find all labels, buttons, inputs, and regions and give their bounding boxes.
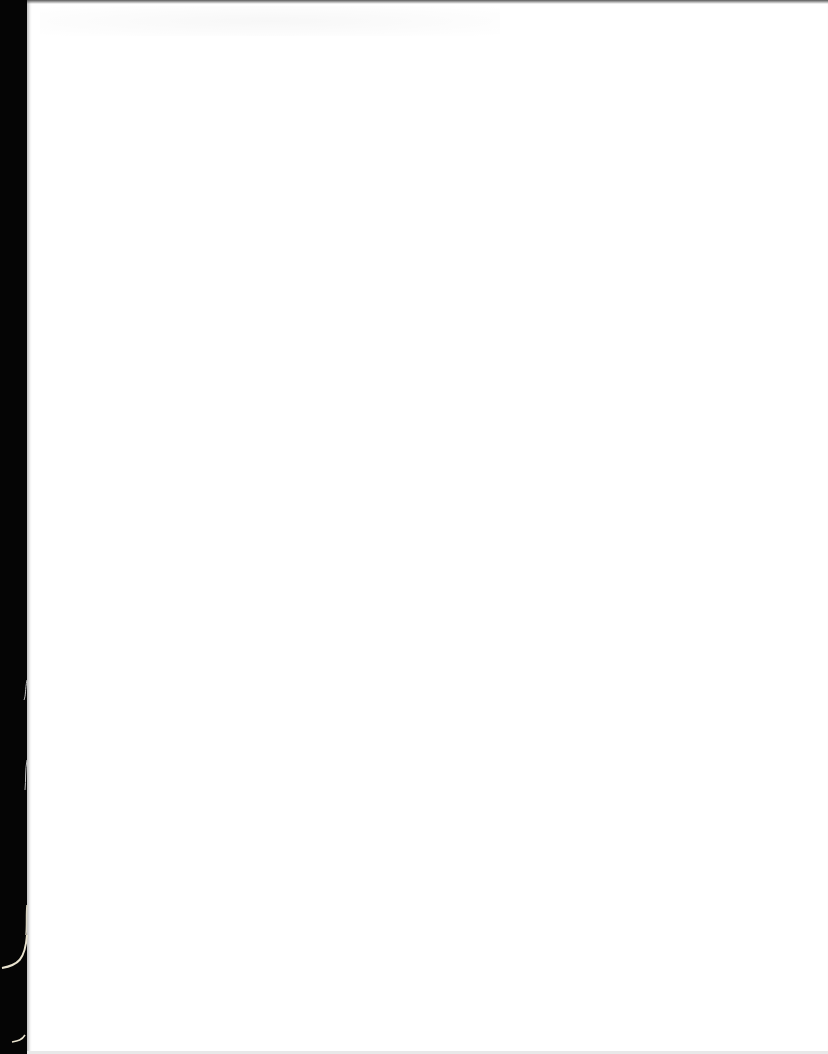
page-top-smudge xyxy=(40,6,500,36)
page-body xyxy=(87,60,768,994)
page-top-edge-shadow xyxy=(27,0,828,4)
blank-scanned-page xyxy=(27,0,828,1054)
binding-thread-decoration xyxy=(0,0,40,1054)
